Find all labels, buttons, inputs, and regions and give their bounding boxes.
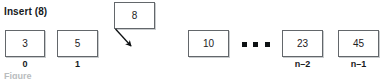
array-cell: 3: [5, 30, 45, 57]
array-cell-value: 10: [189, 39, 228, 49]
array-index-label: 1: [57, 60, 98, 69]
array-cell-value: 45: [339, 39, 378, 49]
ellipsis-dot: [253, 42, 258, 47]
array-cell-value: 23: [283, 39, 322, 49]
array-cell-value: 3: [6, 39, 44, 49]
array-cell: 10: [188, 30, 229, 57]
ellipsis-dot: [242, 42, 247, 47]
array-insert-diagram: Insert (8) 3 0 5 1 10 23 n–2 45 n–1 8 Fi…: [0, 0, 382, 79]
figure-caption-partial: Figure: [4, 72, 204, 79]
ellipsis-dot: [265, 42, 270, 47]
inserted-value: 8: [115, 11, 154, 21]
array-index-label: n–1: [338, 60, 379, 69]
array-cell: 5: [57, 30, 98, 57]
array-cell-value: 5: [58, 39, 97, 49]
array-cell: 45: [338, 30, 379, 57]
operation-label: Insert (8): [4, 6, 47, 17]
array-index-label: 0: [5, 60, 45, 69]
array-cell: 23: [282, 30, 323, 57]
ellipsis-dots: [242, 42, 270, 47]
array-index-label: n–2: [282, 60, 323, 69]
insert-arrow-icon: [110, 24, 144, 54]
